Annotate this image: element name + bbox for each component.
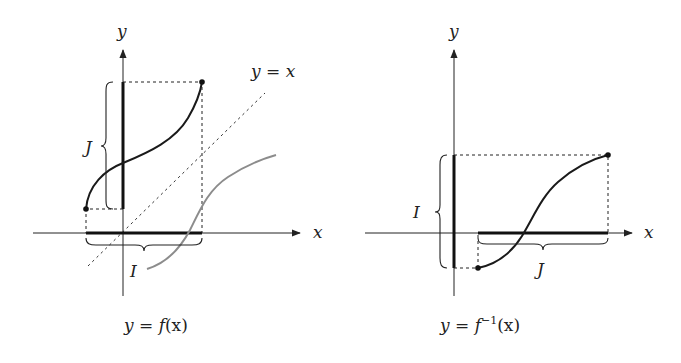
caption-f: y = f(x) [123,315,188,335]
y-axis-label: y [448,21,459,41]
endpoint-end [199,79,205,85]
graph-f-inverse-reflected [147,155,276,269]
range-brace [435,155,447,268]
guide-bottom-left [86,209,123,233]
graph-f-inverse [478,155,608,268]
x-axis-label: x [644,222,654,242]
right-panel-f-inverse: x y I J y = f−1(x) [365,21,654,335]
endpoint-start [475,265,481,271]
domain-label-I: I [129,261,137,281]
diagonal-label: y = x [250,61,296,81]
diagonal-line [88,93,265,266]
range-label-I: I [412,202,420,222]
endpoint-end [605,152,611,158]
y-axis-label: y [116,21,127,41]
range-label-J: J [82,137,93,157]
caption-f-inverse: y = f−1(x) [439,314,520,335]
x-axis-label: x [313,222,323,242]
left-panel-f: x y y = x J I y = f(x) [33,21,323,335]
endpoint-start [83,206,89,212]
guide-bottom-left [454,233,478,268]
inverse-function-figure: x y y = x J I y = f(x) x [0,0,681,363]
domain-brace [478,238,608,250]
range-brace [101,82,113,209]
domain-label-J: J [534,259,545,279]
